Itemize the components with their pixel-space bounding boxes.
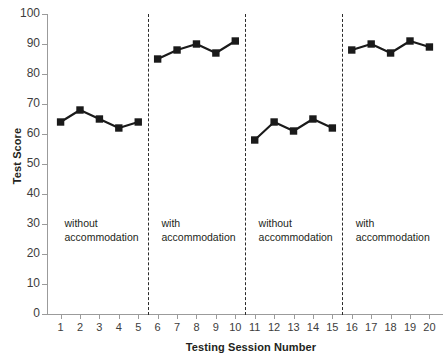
data-point-marker: [329, 124, 336, 131]
data-point-marker: [135, 118, 142, 125]
data-point-marker: [96, 115, 103, 122]
data-point-marker: [270, 118, 277, 125]
data-point-marker: [309, 115, 316, 122]
chart-container: Test Score Testing Session Number 010203…: [0, 0, 448, 364]
data-point-marker: [193, 40, 200, 47]
data-point-marker: [57, 118, 64, 125]
data-point-marker: [251, 136, 258, 143]
data-point-marker: [426, 43, 433, 50]
data-point-marker: [154, 55, 161, 62]
data-point-marker: [387, 49, 394, 56]
data-point-marker: [367, 40, 374, 47]
data-point-marker: [232, 37, 239, 44]
data-point-marker: [76, 106, 83, 113]
data-point-marker: [115, 124, 122, 131]
series-layer: [0, 0, 448, 364]
data-point-marker: [173, 46, 180, 53]
data-point-marker: [290, 127, 297, 134]
data-point-marker: [406, 37, 413, 44]
data-point-marker: [212, 49, 219, 56]
data-point-marker: [348, 46, 355, 53]
